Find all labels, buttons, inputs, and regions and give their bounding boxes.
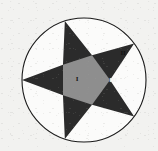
star-circle-figure: I II III bbox=[0, 0, 158, 151]
region-label-iii: III bbox=[109, 76, 117, 84]
figure-canvas: I II III bbox=[0, 0, 158, 151]
region-label-ii: II bbox=[120, 49, 126, 57]
